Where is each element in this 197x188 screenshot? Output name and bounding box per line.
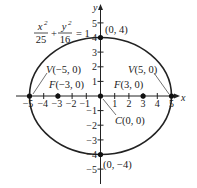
svg-text:2: 2	[68, 19, 72, 27]
label-focus-right: F(3, 0)	[113, 79, 144, 91]
y-axis-label: y	[92, 2, 98, 13]
label-covertex-top: (0, 4)	[105, 24, 128, 36]
y-tick-label: −5	[86, 164, 97, 175]
x-axis-label: x	[180, 92, 186, 103]
covertex-top-point	[98, 35, 103, 40]
y-tick-label: −3	[86, 135, 97, 146]
y-tick-label: −2	[86, 120, 97, 131]
x-tick-label: 4	[155, 98, 160, 109]
x-tick-label: −3	[52, 98, 63, 109]
x-axis-arrow-icon	[174, 94, 180, 99]
vertex-right-point	[169, 93, 174, 98]
svg-text:x: x	[37, 21, 43, 32]
svg-text:2: 2	[44, 19, 48, 27]
label-center: C(0, 0)	[115, 115, 145, 127]
x-tick-label: 5	[169, 98, 174, 109]
focus-right-point	[141, 93, 146, 98]
label-covertex-bottom: (0, −4)	[103, 159, 132, 171]
x-tick-label: 1	[112, 98, 117, 109]
y-tick-label: 2	[92, 61, 97, 72]
label-vertex-right: V(5, 0)	[128, 64, 158, 76]
y-tick-label: 4	[92, 32, 97, 43]
svg-text:25: 25	[36, 34, 47, 45]
y-tick-label: 5	[92, 18, 97, 29]
label-focus-left: F(−3, 0)	[48, 79, 85, 91]
ellipse-diagram: x −5 −4 −3 −2 −1 1 2 3 4 5	[0, 0, 197, 188]
label-vertex-left: V(−5, 0)	[46, 64, 82, 76]
vertex-left-point	[27, 93, 32, 98]
y-tick-label: −1	[86, 105, 97, 116]
svg-text:= 1: = 1	[76, 28, 90, 39]
y-tick-label: 3	[92, 47, 97, 58]
covertex-bottom-point	[98, 152, 103, 157]
y-axis-arrow-icon	[98, 4, 103, 10]
center-point	[98, 93, 103, 98]
svg-text:y: y	[61, 21, 67, 32]
y-tick-label: 1	[92, 76, 97, 87]
x-tick-label: −5	[23, 98, 34, 109]
focus-left-point	[55, 93, 60, 98]
y-tick-label: −4	[86, 149, 97, 160]
x-tick-label: 2	[126, 98, 131, 109]
x-tick-label: −4	[37, 98, 48, 109]
x-tick-label: −2	[66, 98, 77, 109]
svg-text:+: +	[51, 28, 57, 39]
ellipse-equation: x 2 25 + y 2 16 = 1	[34, 19, 90, 45]
svg-text:16: 16	[60, 34, 71, 45]
x-tick-label: 3	[141, 98, 146, 109]
